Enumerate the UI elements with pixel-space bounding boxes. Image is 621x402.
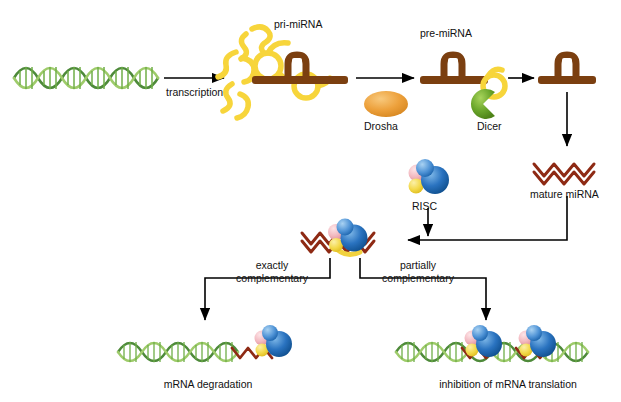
label-drosha: Drosha <box>364 120 398 132</box>
drosha-enzyme <box>364 91 408 117</box>
pri-mirna-hairpin <box>252 55 348 84</box>
label-mrna-degradation: mRNA degradation <box>128 378 288 390</box>
mrna-target-partial <box>396 325 588 362</box>
dna-duplex <box>14 67 158 89</box>
label-inhibition-of-translation: inhibition of mRNA translation <box>408 378 608 390</box>
label-exactly-complementary-line2: complementary <box>225 272 319 284</box>
label-pre-mirna: pre-miRNA <box>420 27 472 39</box>
figure-canvas: transcription pri-miRNA pre-miRNA Drosha… <box>0 0 621 402</box>
label-pri-mirna: pri-miRNA <box>274 18 322 30</box>
cut-hairpin <box>538 55 596 84</box>
label-partially-complementary-line1: partially <box>378 259 458 271</box>
label-partially-complementary-line2: complementary <box>371 272 465 284</box>
mrna-target-exact <box>118 325 292 362</box>
label-exactly-complementary-line1: exactly <box>232 259 312 271</box>
pri-mirna-transcript <box>218 27 330 118</box>
label-risc: RISC <box>412 200 437 212</box>
label-dicer: Dicer <box>477 120 502 132</box>
label-transcription: transcription <box>166 86 223 98</box>
risc-loaded-mirna <box>302 219 374 255</box>
diagram-svg <box>0 0 621 402</box>
risc-complex <box>409 159 450 194</box>
dicer-enzyme-shape <box>471 89 495 119</box>
mature-mirna-duplex <box>534 164 594 184</box>
label-mature-mirna: mature miRNA <box>530 188 599 200</box>
